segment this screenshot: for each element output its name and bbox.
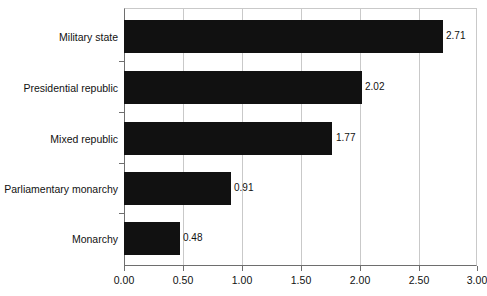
x-tick-label-3.00: 3.00 xyxy=(467,274,487,286)
value-label-parliamentary-monarchy: 0.91 xyxy=(234,182,253,194)
value-label-presidential-republic: 2.02 xyxy=(365,81,384,93)
bar-presidential-republic[interactable] xyxy=(124,71,362,104)
x-tick-label-2.00: 2.00 xyxy=(350,274,370,286)
category-labels-layer: Military state Presidential republic Mix… xyxy=(0,8,118,266)
bar-monarchy[interactable] xyxy=(124,222,180,255)
bar-mixed-republic[interactable] xyxy=(124,122,332,155)
value-label-military-state: 2.71 xyxy=(446,30,465,42)
category-label-presidential-republic: Presidential republic xyxy=(0,82,118,94)
category-label-military-state: Military state xyxy=(0,31,118,43)
bar-parliamentary-monarchy[interactable] xyxy=(124,172,231,205)
x-tick-2.50 xyxy=(419,266,420,271)
bars-layer xyxy=(124,8,477,266)
value-label-monarchy: 0.48 xyxy=(183,232,202,244)
category-label-monarchy: Monarchy xyxy=(0,233,118,245)
x-tick-label-0.00: 0.00 xyxy=(114,274,134,286)
x-tick-0.00 xyxy=(124,266,125,271)
bar-chart: 2.71 2.02 1.77 0.91 0.48 Military state … xyxy=(0,0,487,296)
value-label-mixed-republic: 1.77 xyxy=(336,132,355,144)
x-tick-0.50 xyxy=(183,266,184,271)
x-tick-2.00 xyxy=(360,266,361,271)
x-tick-1.00 xyxy=(242,266,243,271)
y-tick-1 xyxy=(119,61,124,62)
y-tick-4 xyxy=(119,213,124,214)
x-tick-label-0.50: 0.50 xyxy=(173,274,193,286)
bar-military-state[interactable] xyxy=(124,20,443,53)
x-tick-1.50 xyxy=(301,266,302,271)
x-tick-3.00 xyxy=(477,266,478,271)
x-tick-label-1.50: 1.50 xyxy=(291,274,311,286)
x-tick-label-2.50: 2.50 xyxy=(409,274,429,286)
category-label-mixed-republic: Mixed republic xyxy=(0,133,118,145)
y-tick-2 xyxy=(119,112,124,113)
y-tick-3 xyxy=(119,163,124,164)
category-label-parliamentary-monarchy: Parliamentary monarchy xyxy=(0,183,118,195)
x-tick-label-1.00: 1.00 xyxy=(232,274,252,286)
